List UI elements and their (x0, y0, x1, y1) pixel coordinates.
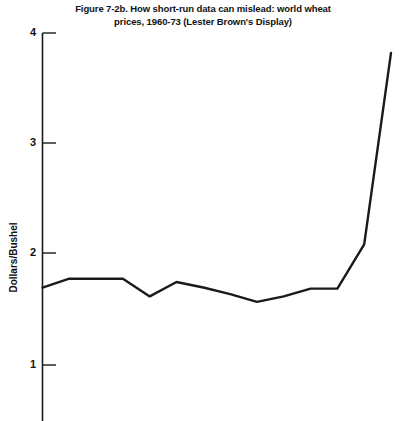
chart-figure: Figure 7-2b. How short-run data can misl… (0, 0, 399, 421)
data-line-series-1 (43, 53, 392, 302)
plot-area (0, 0, 399, 421)
